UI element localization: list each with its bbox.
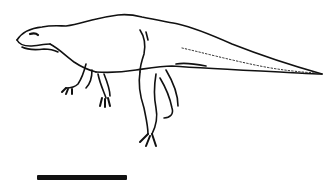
- dinosaur-illustration: [0, 0, 336, 184]
- dinosaur-drawing: [0, 0, 336, 184]
- scale-bar: [37, 175, 127, 180]
